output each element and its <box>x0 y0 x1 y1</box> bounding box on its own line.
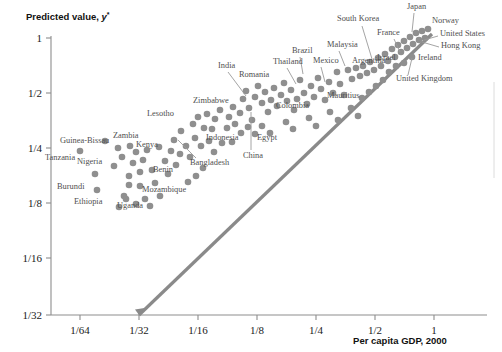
y-axis-tick-label-3: 1/8 <box>28 197 43 209</box>
data-point <box>416 37 423 44</box>
data-point <box>240 96 247 103</box>
data-point <box>315 75 322 82</box>
data-point <box>211 149 218 156</box>
data-point <box>271 85 278 92</box>
data-point <box>224 125 231 132</box>
leader-line <box>408 58 412 75</box>
point-label-guinea-bissau: Guinea-Bissau <box>60 136 110 145</box>
point-label-zambia: Zambia <box>113 131 139 140</box>
leader-line <box>339 51 345 66</box>
point-label-uganda: Uganda <box>117 201 143 210</box>
data-point <box>407 34 414 41</box>
data-point <box>326 79 333 86</box>
point-label-india: India <box>218 61 235 70</box>
y-axis-tick-label-5: 1/32 <box>22 309 42 321</box>
leader-line <box>287 68 296 84</box>
data-point <box>345 67 352 74</box>
point-label-japan: Japan <box>407 2 427 11</box>
data-point <box>301 90 308 97</box>
y-axis-tick-label-2: 1/4 <box>28 142 43 154</box>
data-point <box>190 121 197 128</box>
point-label-burundi: Burundi <box>57 182 85 191</box>
point-label-mozambique: Mozambique <box>142 185 186 194</box>
data-point <box>209 126 216 133</box>
data-point <box>173 162 180 169</box>
point-label-ireland: Ireland <box>418 53 443 62</box>
data-point <box>195 114 202 121</box>
data-point <box>198 143 205 150</box>
data-point <box>115 145 122 152</box>
data-point <box>212 116 219 123</box>
point-label-ethiopia: Ethiopia <box>74 197 103 206</box>
point-label-france: France <box>377 28 400 37</box>
data-point <box>404 45 411 52</box>
x-axis-tick-label-3: 1/8 <box>250 324 265 336</box>
data-point <box>230 104 237 111</box>
data-point <box>283 119 290 126</box>
data-point <box>419 28 426 35</box>
point-label-norway: Norway <box>432 16 460 25</box>
point-label-china: China <box>243 151 263 160</box>
data-point <box>137 169 144 176</box>
data-point <box>386 69 393 76</box>
data-point <box>401 38 408 45</box>
data-point <box>334 69 341 76</box>
point-label-colombia: Colombia <box>276 101 309 110</box>
data-point <box>281 80 288 87</box>
leader-line <box>321 67 325 82</box>
data-point <box>126 173 133 180</box>
data-point <box>308 83 315 90</box>
leader-line <box>362 26 372 59</box>
data-point <box>147 203 154 210</box>
data-point <box>162 158 169 165</box>
data-point <box>311 94 318 101</box>
data-point <box>348 105 355 112</box>
data-point <box>133 149 140 156</box>
point-label-nigeria: Nigeria <box>77 157 102 166</box>
data-point <box>245 124 252 131</box>
data-point <box>422 35 429 42</box>
data-point <box>401 60 408 67</box>
point-label-thailand: Thailand <box>273 57 304 66</box>
data-point <box>177 151 184 158</box>
point-label-indonesia: Indonesia <box>206 133 239 142</box>
data-point <box>265 109 272 116</box>
data-point <box>357 73 364 80</box>
data-point <box>297 77 304 84</box>
data-point <box>94 187 101 194</box>
data-point <box>413 30 420 37</box>
data-point <box>111 163 118 170</box>
point-label-lesotho: Lesotho <box>147 109 174 118</box>
data-point <box>193 173 200 180</box>
reference-line <box>135 34 432 315</box>
data-point <box>171 137 178 144</box>
data-point <box>178 128 185 135</box>
data-point <box>349 76 356 83</box>
y-axis-tick-label-4: 1/16 <box>22 252 42 264</box>
point-label-malaysia: Malaysia <box>327 40 358 49</box>
data-point <box>268 97 275 104</box>
data-point <box>355 113 362 120</box>
data-point <box>278 92 285 99</box>
point-label-south-korea: South Korea <box>337 14 379 23</box>
data-point <box>288 87 295 94</box>
data-point <box>353 65 360 72</box>
point-label-united-states: United States <box>440 29 485 38</box>
data-point <box>140 157 147 164</box>
x-axis-tick-label-1: 1/32 <box>129 324 149 336</box>
data-point <box>366 89 373 96</box>
x-axis-tick-label-2: 1/16 <box>188 324 208 336</box>
point-label-mauritius: Mauritius <box>327 91 360 100</box>
data-point <box>364 70 371 77</box>
data-point <box>313 123 320 130</box>
data-point <box>290 126 297 133</box>
data-point <box>318 86 325 93</box>
y-axis-tick-label-0: 1 <box>37 32 43 44</box>
data-point <box>237 110 244 117</box>
data-point <box>204 111 211 118</box>
x-axis-tick-label-0: 1/64 <box>70 324 90 336</box>
data-point <box>262 89 269 96</box>
point-label-united-kingdom: United Kingdom <box>396 74 453 83</box>
leader-line <box>422 42 439 47</box>
data-point <box>246 105 253 112</box>
